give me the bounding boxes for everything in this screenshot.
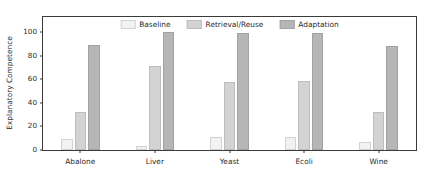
- y-tick-label: 100: [13, 29, 37, 36]
- y-tick-mark: [40, 55, 44, 56]
- y-tick-label: 0: [13, 146, 37, 153]
- legend-swatch-icon: [279, 20, 294, 29]
- bar-liver-retrieval-reuse: [149, 66, 161, 150]
- bar-yeast-retrieval-reuse: [224, 82, 236, 149]
- y-tick-label: 20: [13, 123, 37, 130]
- y-tick-label: 80: [13, 52, 37, 59]
- legend-entry-adaptation: Adaptation: [279, 20, 338, 29]
- y-tick-mark: [40, 79, 44, 80]
- y-tick-mark: [40, 32, 44, 33]
- bar-wine-adaptation: [386, 46, 398, 150]
- legend-entry-baseline: Baseline: [120, 20, 170, 29]
- y-tick-mark: [40, 126, 44, 127]
- bar-ecoli-retrieval-reuse: [298, 81, 310, 149]
- x-tick-label-yeast: Yeast: [220, 157, 239, 166]
- bar-yeast-baseline: [210, 137, 222, 150]
- chart-legend: BaselineRetrieval/ReuseAdaptation: [120, 20, 339, 29]
- bar-wine-retrieval-reuse: [373, 112, 385, 150]
- legend-swatch-icon: [187, 20, 202, 29]
- bar-liver-baseline: [136, 146, 148, 150]
- figure-canvas: Explanatory Competence 020406080100Abalo…: [0, 0, 433, 183]
- bar-ecoli-baseline: [285, 137, 297, 150]
- x-tick-mark: [80, 150, 81, 154]
- x-tick-label-wine: Wine: [369, 157, 387, 166]
- bar-wine-baseline: [359, 142, 371, 149]
- plot-area: 020406080100AbaloneLiverYeastEcoliWine: [43, 17, 416, 150]
- x-tick-mark: [304, 150, 305, 154]
- legend-label: Adaptation: [298, 20, 338, 29]
- y-tick-mark: [40, 150, 44, 151]
- legend-label: Retrieval/Reuse: [206, 20, 264, 29]
- y-tick-label: 40: [13, 99, 37, 106]
- legend-entry-retrieval-reuse: Retrieval/Reuse: [187, 20, 264, 29]
- x-tick-label-abalone: Abalone: [65, 157, 95, 166]
- bar-abalone-adaptation: [88, 45, 100, 150]
- y-tick-mark: [40, 102, 44, 103]
- plot-frame: 020406080100AbaloneLiverYeastEcoliWine B…: [42, 16, 417, 151]
- x-tick-mark: [229, 150, 230, 154]
- legend-label: Baseline: [139, 20, 170, 29]
- y-axis-label: Explanatory Competence: [5, 36, 14, 130]
- x-tick-label-liver: Liver: [146, 157, 164, 166]
- y-tick-label: 60: [13, 76, 37, 83]
- bar-yeast-adaptation: [237, 33, 249, 150]
- x-tick-label-ecoli: Ecoli: [295, 157, 312, 166]
- x-tick-mark: [378, 150, 379, 154]
- y-axis-label-holder: Explanatory Competence: [13, 16, 14, 151]
- bar-liver-adaptation: [163, 32, 175, 150]
- bar-abalone-retrieval-reuse: [75, 112, 87, 150]
- x-tick-mark: [154, 150, 155, 154]
- bar-ecoli-adaptation: [312, 33, 324, 150]
- legend-swatch-icon: [120, 20, 135, 29]
- bar-abalone-baseline: [61, 139, 73, 150]
